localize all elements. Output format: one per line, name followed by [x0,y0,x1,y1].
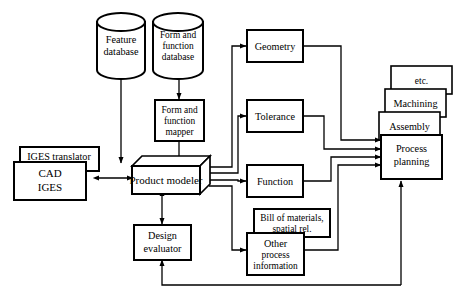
node-design-evaluator[interactable]: Design evaluator [134,225,191,260]
cad-iges-label-2: IGES [38,181,62,193]
node-form-function-database[interactable]: Form and function database [153,13,203,79]
product-modeler-label: Product modeler [129,174,202,186]
process-planning-label-2: planning [394,156,430,167]
node-process-planning[interactable]: Process planning [381,135,442,179]
form-function-mapper-label-2: function [164,116,196,126]
machining-label: Machining [393,98,437,109]
cad-iges-label-1: CAD [38,167,61,179]
flow-diagram: Feature database Form and function datab… [0,0,461,304]
node-form-function-mapper[interactable]: Form and function mapper [155,100,204,141]
other-process-information-label-1: Other [264,238,288,249]
edge-product-modeler-to-other-process-info [209,186,246,250]
function-label: Function [257,176,293,187]
edge-tolerance-to-process-planning [303,116,381,149]
node-cad-iges[interactable]: CAD IGES [14,162,86,200]
edge-geometry-to-process-planning [303,46,381,140]
assembly-label: Assembly [389,121,431,132]
node-tolerance[interactable]: Tolerance [247,100,303,132]
other-process-information-label-3: information [253,261,298,271]
form-function-mapper-label-3: mapper [165,127,194,137]
etc-label: etc. [415,76,428,86]
diagram-canvas: Feature database Form and function datab… [0,0,461,304]
edge-function-to-process-planning [303,157,381,181]
tolerance-label: Tolerance [255,111,295,122]
iges-translator-label: IGES translator [27,151,91,162]
geometry-label: Geometry [255,41,297,52]
form-function-mapper-label-1: Form and [161,105,198,115]
feature-database-label-2: database [103,46,139,57]
design-evaluator-label-1: Design [148,230,177,241]
feature-database-label-1: Feature [106,34,137,45]
design-evaluator-label-2: evaluator [144,243,183,254]
node-product-modeler[interactable]: Product modeler [129,156,210,194]
other-process-information-label-2: process [261,250,289,260]
node-feature-database[interactable]: Feature database [97,13,145,79]
form-function-database-label-3: database [162,52,194,62]
edge-product-modeler-to-tolerance [209,116,246,173]
bill-of-materials-label-1: Bill of materials, [260,213,323,223]
form-function-database-label-1: Form and [160,30,197,40]
edge-product-modeler-to-function [209,180,246,181]
node-other-process-information[interactable]: Other process information [247,233,304,275]
process-planning-label-1: Process [396,143,427,154]
form-function-database-label-2: function [162,41,194,51]
node-geometry[interactable]: Geometry [247,30,303,62]
node-function[interactable]: Function [247,165,303,197]
edge-product-modeler-to-geometry [209,46,246,167]
